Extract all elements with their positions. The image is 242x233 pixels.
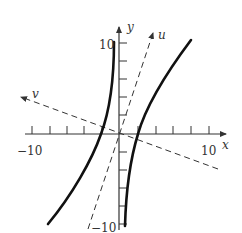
x-axis [25,126,226,134]
u-axis-dashed [88,33,153,229]
hyperbola-right-branch [125,40,191,226]
y-axis-label: y [126,20,134,34]
u-axis-label: u [158,28,166,42]
x-axis-label: x [222,138,229,152]
x-max-label: 10 [201,144,216,158]
v-axis-label: v [32,87,39,101]
hyperbola-left-branch [48,42,114,224]
y-min-label: −10 [91,221,116,233]
y-max-label: 10 [99,38,114,52]
x-min-label: −10 [17,144,42,158]
hyperbola-diagram: y u v x −10 10 10 −10 [0,0,242,233]
